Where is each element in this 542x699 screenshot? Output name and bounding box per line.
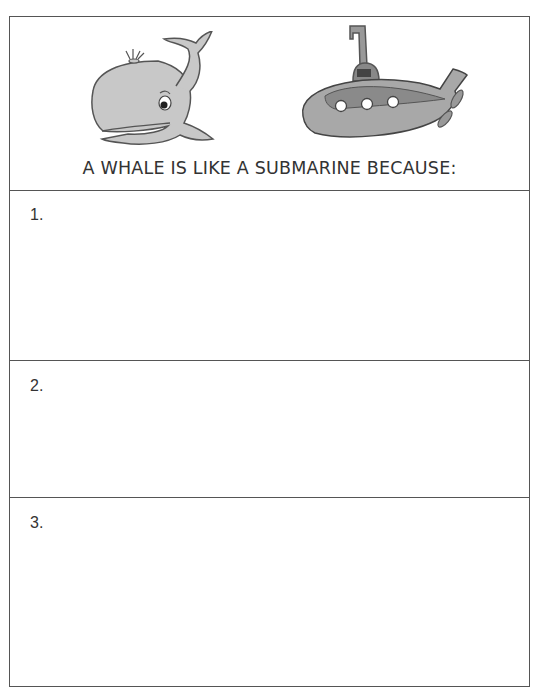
row-number: 3.	[30, 514, 43, 532]
whale-icon	[88, 31, 218, 146]
submarine-icon	[295, 21, 470, 146]
answer-row-2[interactable]: 2.	[10, 361, 529, 498]
answer-row-1[interactable]: 1.	[10, 190, 529, 361]
worksheet-title: A WHALE IS LIKE A SUBMARINE BECAUSE:	[10, 158, 529, 178]
worksheet: A WHALE IS LIKE A SUBMARINE BECAUSE: 1. …	[9, 16, 530, 687]
answer-row-3[interactable]: 3.	[10, 498, 529, 686]
row-number: 1.	[30, 206, 43, 224]
worksheet-header: A WHALE IS LIKE A SUBMARINE BECAUSE:	[10, 17, 529, 191]
row-number: 2.	[30, 377, 43, 395]
